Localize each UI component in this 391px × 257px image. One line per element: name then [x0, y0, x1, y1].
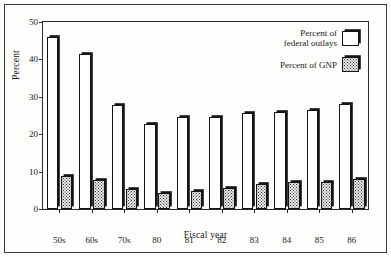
- y-tick-label: 0: [34, 204, 39, 214]
- legend-item-federal-outlays: Percent of federal outlays: [214, 28, 362, 48]
- bar-gnp: [288, 182, 300, 209]
- bar-federal-outlays: [177, 117, 189, 209]
- x-tick-mark: [222, 209, 223, 213]
- bar-gnp: [126, 189, 138, 209]
- legend-label-federal-outlays: Percent of federal outlays: [284, 28, 342, 48]
- bar-federal-outlays: [144, 124, 156, 209]
- bar-federal-outlays: [339, 104, 351, 209]
- legend-item-gnp: Percent of GNP: [214, 57, 362, 72]
- y-tick-label: 40: [29, 54, 38, 64]
- bar-federal-outlays: [79, 54, 91, 209]
- x-tick-mark: [92, 209, 93, 213]
- x-tick-mark: [287, 209, 288, 213]
- x-axis-label: Fiscal year: [42, 230, 369, 240]
- chart-figure: Percent 01020304050 Percent of federal o…: [0, 0, 391, 257]
- bar-gnp: [353, 179, 365, 209]
- bar-gnp: [191, 191, 203, 209]
- legend-label-gnp: Percent of GNP: [280, 60, 342, 70]
- plot-area: 01020304050 Percent of federal outlays P…: [42, 21, 369, 210]
- bar-federal-outlays: [274, 112, 286, 209]
- bar-group: [177, 22, 203, 209]
- bar-federal-outlays: [307, 110, 319, 209]
- bar-gnp: [61, 176, 73, 209]
- bar-group: [79, 22, 105, 209]
- y-axis-label: Percent: [11, 25, 21, 105]
- x-tick-mark: [254, 209, 255, 213]
- chart-legend: Percent of federal outlays Percent of GN…: [214, 28, 362, 81]
- x-tick-mark: [352, 209, 353, 213]
- y-tick-label: 10: [29, 167, 38, 177]
- y-tick-mark: [39, 209, 43, 210]
- legend-label-line2: federal outlays: [284, 38, 337, 48]
- bar-group: [144, 22, 170, 209]
- legend-label-line1: Percent of GNP: [280, 60, 337, 70]
- bar-federal-outlays: [47, 37, 59, 209]
- bar-federal-outlays: [242, 113, 254, 209]
- hollow-white-swatch-icon: [342, 31, 359, 46]
- stippled-gray-swatch-icon: [342, 57, 359, 72]
- bar-federal-outlays: [112, 105, 124, 209]
- x-tick-mark: [124, 209, 125, 213]
- bar-gnp: [223, 188, 235, 209]
- x-tick-mark: [157, 209, 158, 213]
- bar-group: [47, 22, 73, 209]
- y-tick-label: 20: [29, 129, 38, 139]
- x-tick-mark: [189, 209, 190, 213]
- bar-gnp: [321, 182, 333, 209]
- bar-gnp: [158, 193, 170, 209]
- x-tick-mark: [319, 209, 320, 213]
- y-tick-label: 50: [29, 17, 38, 27]
- bar-group: [112, 22, 138, 209]
- bar-gnp: [93, 180, 105, 209]
- legend-label-line1: Percent of: [284, 28, 337, 38]
- bar-gnp: [256, 184, 268, 209]
- y-tick-label: 30: [29, 92, 38, 102]
- bar-federal-outlays: [209, 117, 221, 209]
- x-tick-mark: [59, 209, 60, 213]
